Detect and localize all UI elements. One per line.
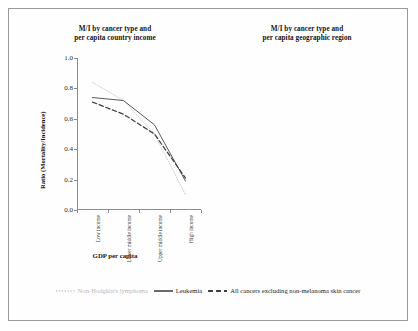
series-layer xyxy=(77,58,201,210)
x-tick-mark xyxy=(108,210,109,213)
x-axis-title-left: GDP per capita xyxy=(17,252,213,259)
legend-swatch xyxy=(56,289,75,293)
legend-item: All cancers excluding non-melanoma skin … xyxy=(208,287,360,294)
x-tick-label: High income xyxy=(188,215,194,243)
x-tick-mark xyxy=(139,210,140,213)
x-tick-mark xyxy=(201,210,202,213)
legend-label: Non-Hodgkin's lymphoma xyxy=(78,287,148,294)
legend-label: All cancers excluding non-melanoma skin … xyxy=(230,287,360,294)
x-tick-mark xyxy=(170,210,171,213)
legend-swatch xyxy=(208,289,227,293)
chart-title-right: M/I by cancer type and per capita geogra… xyxy=(213,25,401,44)
chart-title-left: M/I by cancer type and per capita countr… xyxy=(17,25,213,44)
chart-legend: Non-Hodgkin's lymphomaLeukemiaAll cancer… xyxy=(9,287,407,294)
x-tick-mark xyxy=(77,210,78,213)
legend-label: Leukemia xyxy=(176,287,202,294)
chart-panel-left: M/I by cancer type and per capita countr… xyxy=(17,9,213,279)
y-axis-title-left: Ratio (Mortality/Incidence) xyxy=(39,112,46,189)
series-line xyxy=(93,98,186,182)
series-line xyxy=(93,102,186,178)
legend-swatch xyxy=(154,289,173,293)
chart-panel-right: M/I by cancer type and per capita geogra… xyxy=(213,9,401,279)
plot-area-left: 0.00.20.40.60.81.0Low incomeLower middle… xyxy=(77,58,201,210)
x-tick-label: Low income xyxy=(95,215,101,242)
legend-item: Non-Hodgkin's lymphoma xyxy=(56,287,148,294)
legend-item: Leukemia xyxy=(154,287,202,294)
figure-frame: M/I by cancer type and per capita countr… xyxy=(8,8,408,321)
